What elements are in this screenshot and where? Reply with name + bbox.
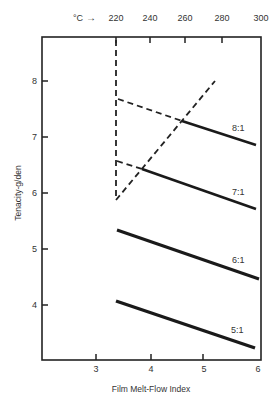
x-tick-label: 3	[93, 364, 98, 374]
y-tick-label: 7	[32, 132, 37, 142]
label-8-1: 8:1	[232, 123, 245, 133]
series-7-1-dashed	[117, 161, 142, 169]
label-7-1: 7:1	[232, 187, 245, 197]
top-tick-label: 240	[142, 13, 157, 23]
y-tick-label: 6	[32, 188, 37, 198]
y-tick-label: 4	[32, 300, 37, 310]
series-8-1	[182, 121, 256, 145]
melt-flow-tenacity-chart: °C → 220 240 260 280 300 8 7 6 5 4 Tenac…	[0, 0, 279, 404]
x-tick-label: 6	[255, 364, 260, 374]
x-axis-title: Film Melt-Flow Index	[112, 384, 191, 394]
label-5-1: 5:1	[231, 325, 244, 335]
x-tick-label: 4	[148, 364, 153, 374]
series-labels: 8:1 7:1 6:1 5:1	[231, 123, 245, 335]
y-tick-label: 5	[32, 244, 37, 254]
solid-series	[116, 121, 259, 348]
top-axis: °C → 220 240 260 280 300	[73, 12, 269, 43]
top-tick-label: 260	[177, 13, 192, 23]
top-tick-label: 280	[214, 13, 229, 23]
top-tick-label: 220	[108, 13, 123, 23]
label-6-1: 6:1	[232, 255, 245, 265]
x-tick-label: 5	[201, 364, 206, 374]
top-axis-unit: °C	[73, 13, 84, 23]
y-axis-title: Tenacity-g/den	[13, 165, 23, 221]
top-tick-label: 300	[253, 13, 268, 23]
series-8-1-dashed	[118, 99, 182, 121]
boundary-diagonal	[116, 81, 215, 200]
top-axis-arrow-icon: →	[86, 12, 96, 23]
y-tick-label: 8	[32, 76, 37, 86]
